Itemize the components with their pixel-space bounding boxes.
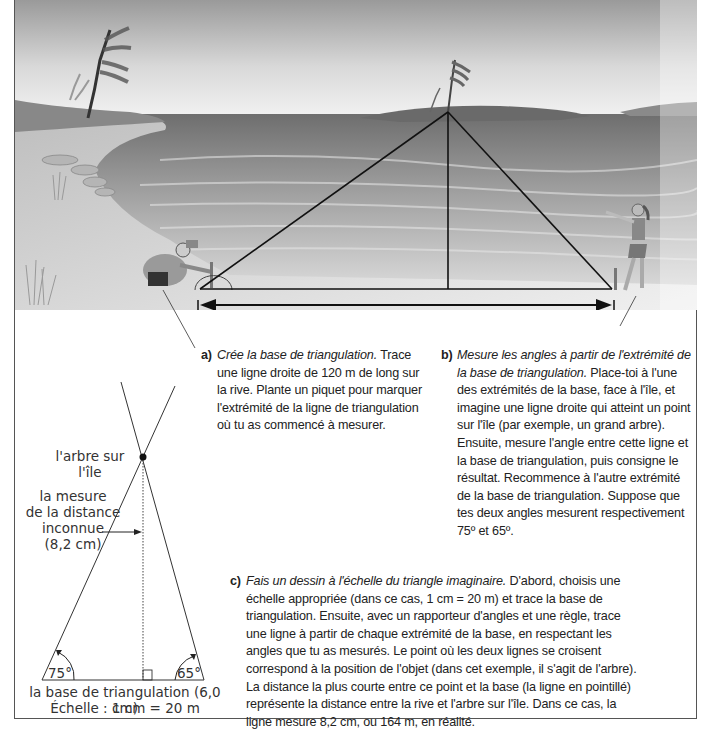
tree-label: l'arbre sur l'île xyxy=(42,448,138,480)
angle-left-label: 75° xyxy=(46,665,74,681)
distance-label-line-2: de la distance xyxy=(22,504,124,520)
scale-label: Échelle : 1 cm = 20 m xyxy=(20,700,230,716)
distance-label-line-3: inconnue xyxy=(22,520,124,536)
scale-triangle-diagram xyxy=(0,0,712,730)
tree-point xyxy=(140,454,147,461)
angle-right-label: 65° xyxy=(175,665,203,681)
distance-label: la mesure de la distance inconnue (8,2 c… xyxy=(22,488,124,552)
distance-label-line-4: (8,2 cm) xyxy=(22,536,124,552)
distance-label-line-1: la mesure xyxy=(22,488,124,504)
